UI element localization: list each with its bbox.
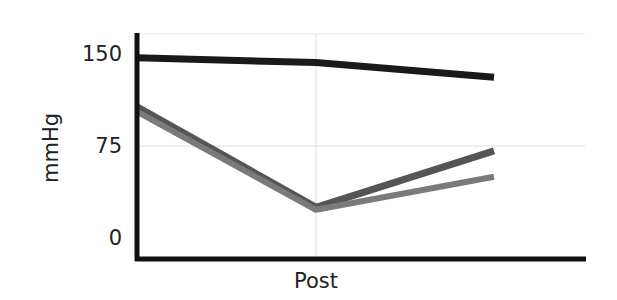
y-tick-0: 0 (109, 226, 122, 250)
y-tick-150: 150 (82, 42, 122, 66)
line-chart: 150 75 0 Post mmHg (0, 0, 617, 300)
y-axis-title: mmHg (39, 113, 63, 183)
y-tick-75: 75 (95, 134, 122, 158)
x-tick-post: Post (294, 269, 338, 293)
